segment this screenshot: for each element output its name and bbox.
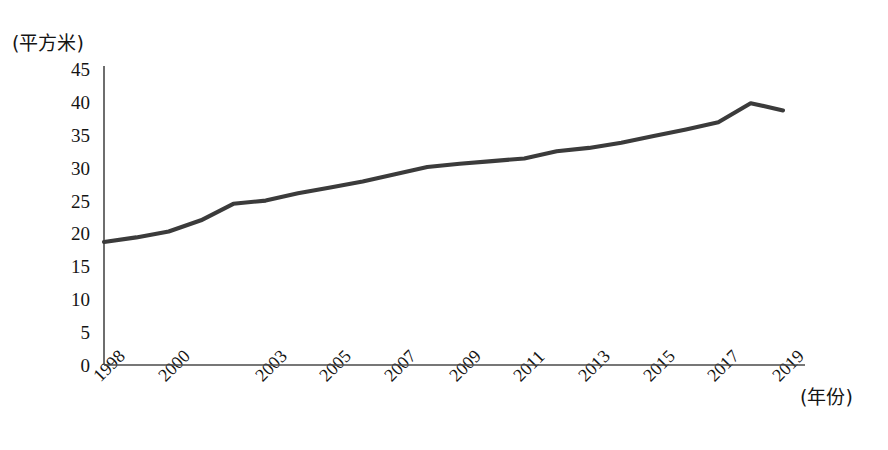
- plot-area: [0, 0, 888, 450]
- chart-figure: (平方米) (年份) 051015202530354045 1998200020…: [0, 0, 888, 450]
- data-series-line: [104, 103, 783, 242]
